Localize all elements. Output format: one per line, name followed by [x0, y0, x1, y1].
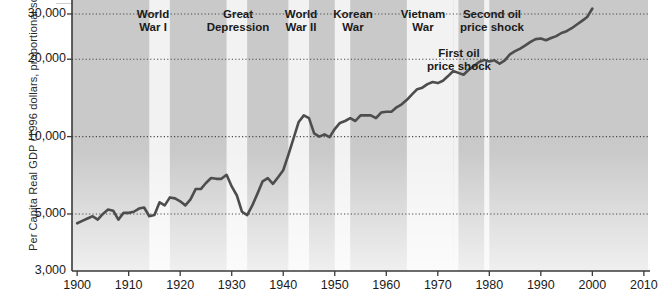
annotation-second-oil-price-shock: Second oil price shock [432, 8, 552, 33]
plot-wash [72, 0, 648, 271]
annotation-first-oil-price-shock: First oil price shock [399, 47, 519, 72]
plot-canvas [0, 0, 658, 305]
chart-figure: Per Capita Real GDP (1996 dollars, propo… [0, 0, 658, 305]
